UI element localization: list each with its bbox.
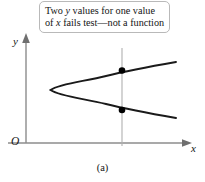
figure-caption: (a) xyxy=(0,162,205,173)
x-axis-label: x xyxy=(191,142,196,154)
vertical-line-test-figure: Two y values for one value of x fails te… xyxy=(0,0,205,182)
intersection-point-lower xyxy=(119,107,126,114)
plot-area xyxy=(0,0,205,182)
y-axis-label: y xyxy=(13,35,18,47)
y-axis-arrowhead-icon xyxy=(22,33,30,43)
origin-label: O xyxy=(11,135,19,147)
parabola-curve xyxy=(51,62,177,118)
intersection-point-upper xyxy=(119,67,126,74)
